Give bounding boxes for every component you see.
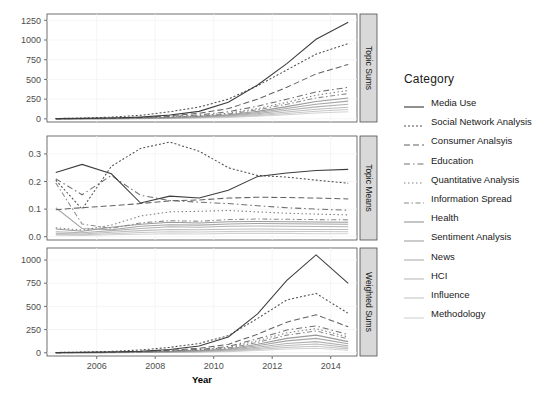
y-tick-label: 0.1 (28, 204, 41, 214)
legend-key-icon (404, 155, 424, 165)
legend-item-label: Quantitative Analysis (431, 174, 519, 185)
legend-key-icon (404, 194, 424, 204)
panel-strip-label: Topic Means (364, 164, 374, 212)
y-tick-label: 0 (36, 348, 41, 358)
legend-key-icon (404, 213, 424, 223)
legend-key-icon (404, 117, 424, 127)
x-tick-label: 2014 (321, 361, 341, 371)
legend-title: Category (404, 72, 539, 86)
y-tick-label: 250 (26, 325, 41, 335)
legend-item-label: News (431, 251, 455, 262)
y-tick-label: 750 (26, 55, 41, 65)
y-tick-label: 1000 (21, 255, 41, 265)
legend-key-icon (404, 174, 424, 184)
panel-strip-label: Weighted Sums (364, 272, 374, 332)
legend-item-label: Consumer Analsyis (431, 135, 512, 146)
legend-item-methodology[interactable]: Methodology (404, 304, 539, 323)
panel-border (47, 14, 357, 122)
legend-item-label: Education (431, 155, 473, 166)
y-tick-label: 1250 (21, 16, 41, 26)
y-tick-label: 0.0 (28, 232, 41, 242)
chart-legend: Category Media UseSocial Network Analysi… (404, 72, 539, 323)
legend-item-news[interactable]: News (404, 247, 539, 266)
y-tick-label: 0.3 (28, 149, 41, 159)
legend-item-label: Influence (431, 289, 470, 300)
x-tick-label: 2008 (145, 361, 165, 371)
legend-item-health[interactable]: Health (404, 208, 539, 227)
legend-item-label: Media Use (431, 97, 476, 108)
legend-key-icon (404, 289, 424, 299)
y-tick-label: 0 (36, 114, 41, 124)
legend-key-icon (404, 136, 424, 146)
panel-border (47, 248, 357, 356)
legend-item-influence[interactable]: Influence (404, 285, 539, 304)
legend-item-quantitative-analysis[interactable]: Quantitative Analysis (404, 170, 539, 189)
y-tick-label: 750 (26, 278, 41, 288)
legend-key-icon (404, 232, 424, 242)
legend-item-consumer-analsyis[interactable]: Consumer Analsyis (404, 131, 539, 150)
legend-key-icon (404, 270, 424, 280)
legend-item-label: Health (431, 212, 458, 223)
y-tick-label: 0.2 (28, 177, 41, 187)
legend-item-education[interactable]: Education (404, 151, 539, 170)
legend-item-label: HCI (431, 270, 447, 281)
y-tick-label: 250 (26, 94, 41, 104)
y-tick-label: 500 (26, 302, 41, 312)
legend-item-social-network-analysis[interactable]: Social Network Analysis (404, 112, 539, 131)
legend-item-media-use[interactable]: Media Use (404, 93, 539, 112)
legend-item-hci[interactable]: HCI (404, 266, 539, 285)
legend-item-label: Social Network Analysis (431, 116, 532, 127)
x-axis-title: Year (192, 374, 212, 385)
x-tick-label: 2010 (204, 361, 224, 371)
x-tick-label: 2006 (87, 361, 107, 371)
legend-item-label: Information Spread (431, 193, 512, 204)
x-tick-label: 2012 (262, 361, 282, 371)
y-tick-label: 1000 (21, 35, 41, 45)
legend-key-icon (404, 98, 424, 108)
legend-item-information-spread[interactable]: Information Spread (404, 189, 539, 208)
legend-key-icon (404, 251, 424, 261)
y-tick-label: 500 (26, 75, 41, 85)
panel-strip-label: Topic Sums (364, 46, 374, 90)
legend-item-sentiment-analysis[interactable]: Sentiment Analysis (404, 227, 539, 246)
legend-item-label: Sentiment Analysis (431, 231, 511, 242)
legend-key-icon (404, 309, 424, 319)
legend-item-label: Methodology (431, 308, 485, 319)
chart-figure: 025050075010001250Topic Sums0.00.10.20.3… (0, 0, 539, 402)
